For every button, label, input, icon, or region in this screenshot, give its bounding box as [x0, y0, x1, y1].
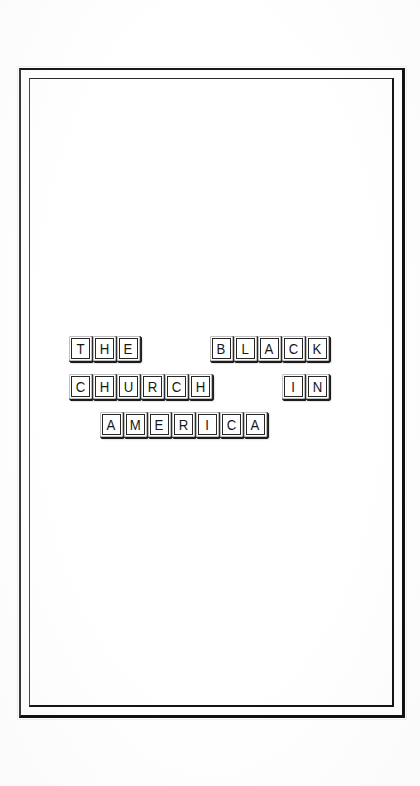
letter-tile: R [172, 412, 195, 437]
letter-tile: R [141, 374, 164, 399]
tile-letter: M [130, 417, 141, 432]
tile-letter: I [206, 417, 210, 432]
tile-face: A [260, 338, 279, 359]
tile-face: L [236, 338, 255, 359]
tile-letter: I [292, 379, 296, 394]
tile-letter: C [172, 379, 182, 394]
letter-tile: B [210, 336, 233, 361]
tile-face: R [174, 414, 193, 435]
tile-face: I [198, 414, 217, 435]
letter-tile: E [148, 412, 171, 437]
letter-tile: M [124, 412, 147, 437]
tile-face: A [246, 414, 265, 435]
tile-letter: K [313, 341, 322, 356]
letter-tile: H [93, 336, 116, 361]
tile-letter: L [242, 341, 249, 356]
letter-tile: A [100, 412, 123, 437]
tile-face: C [71, 376, 90, 397]
letter-tile: I [196, 412, 219, 437]
tile-face: E [119, 338, 138, 359]
letter-tile: K [306, 336, 329, 361]
tile-letter: H [196, 379, 206, 394]
tile-letter: A [251, 417, 260, 432]
tile-face: M [126, 414, 145, 435]
cover-title-block: T H E B [0, 336, 420, 450]
letter-tile: C [69, 374, 92, 399]
letter-tile: N [306, 374, 329, 399]
tile-letter: T [76, 341, 84, 356]
letter-tile: H [93, 374, 116, 399]
tile-letter: H [100, 341, 110, 356]
tile-face: R [143, 376, 162, 397]
title-word-in: I N [282, 374, 330, 399]
tile-face: C [167, 376, 186, 397]
title-word-the: T H E [69, 336, 141, 361]
tile-face: U [119, 376, 138, 397]
tile-letter: C [289, 341, 299, 356]
tile-face: H [95, 338, 114, 359]
tile-face: H [191, 376, 210, 397]
letter-tile: C [282, 336, 305, 361]
title-row-1: T H E B [0, 336, 420, 374]
letter-tile: L [234, 336, 257, 361]
tile-face: T [71, 338, 90, 359]
tile-face: E [150, 414, 169, 435]
title-word-america: A M E R [100, 412, 268, 437]
letter-tile: E [117, 336, 140, 361]
letter-tile: A [244, 412, 267, 437]
tile-letter: E [124, 341, 133, 356]
tile-face: A [102, 414, 121, 435]
tile-face: B [212, 338, 231, 359]
tile-letter: A [265, 341, 274, 356]
letter-tile: A [258, 336, 281, 361]
tile-letter: R [148, 379, 158, 394]
letter-tile: H [189, 374, 212, 399]
letter-tile: C [220, 412, 243, 437]
tile-letter: B [217, 341, 226, 356]
letter-tile: C [165, 374, 188, 399]
tile-letter: E [155, 417, 164, 432]
title-row-3: A M E R [0, 412, 420, 450]
title-row-2: C H U R [0, 374, 420, 412]
tile-face: H [95, 376, 114, 397]
title-word-black: B L A C [210, 336, 330, 361]
letter-tile: T [69, 336, 92, 361]
tile-letter: N [313, 379, 323, 394]
tile-face: C [222, 414, 241, 435]
tile-face: I [284, 376, 303, 397]
tile-face: N [308, 376, 327, 397]
letter-tile: U [117, 374, 140, 399]
tile-letter: A [107, 417, 116, 432]
tile-letter: U [124, 379, 134, 394]
title-word-church: C H U R [69, 374, 213, 399]
letter-tile: I [282, 374, 305, 399]
tile-letter: C [227, 417, 237, 432]
tile-letter: R [179, 417, 189, 432]
book-cover-page: T H E B [0, 0, 420, 786]
tile-letter: H [100, 379, 110, 394]
tile-face: K [308, 338, 327, 359]
tile-face: C [284, 338, 303, 359]
tile-letter: C [76, 379, 86, 394]
